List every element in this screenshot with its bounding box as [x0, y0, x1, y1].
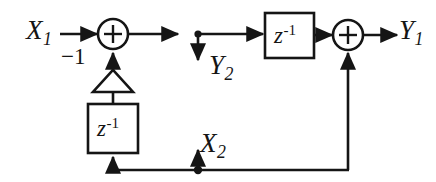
input-label-x1-subscript: 1	[43, 29, 52, 49]
output-label-y1-subscript: 1	[415, 29, 424, 49]
input-label-x2: X2	[200, 130, 226, 162]
input-label-x2-base: X	[200, 128, 217, 158]
node-x2-tap-dot	[194, 166, 202, 174]
output-label-y2: Y2	[209, 52, 233, 84]
node-y2-tap-dot	[194, 30, 201, 37]
output-label-y2-base: Y	[209, 50, 224, 80]
delay-bottom-label: z-1	[97, 115, 119, 140]
gain-triangle	[93, 70, 133, 92]
gain-label: −1	[61, 45, 85, 68]
output-label-y1-base: Y	[399, 15, 414, 45]
input-label-x2-subscript: 2	[217, 142, 226, 162]
input-label-x1: X1	[26, 17, 52, 49]
delay-top-label: z-1	[274, 22, 296, 47]
output-label-y1: Y1	[399, 17, 423, 49]
output-label-y2-subscript: 2	[225, 64, 234, 84]
delay-top-label-base: z	[274, 23, 283, 48]
delay-top-label-exponent: -1	[283, 21, 296, 38]
input-label-x1-base: X	[26, 15, 43, 45]
diagram-canvas: X1 Y2 Y1 X2 −1 z-1 z-1	[0, 0, 436, 182]
delay-bottom-label-base: z	[97, 116, 106, 141]
delay-bottom-label-exponent: -1	[106, 114, 119, 131]
